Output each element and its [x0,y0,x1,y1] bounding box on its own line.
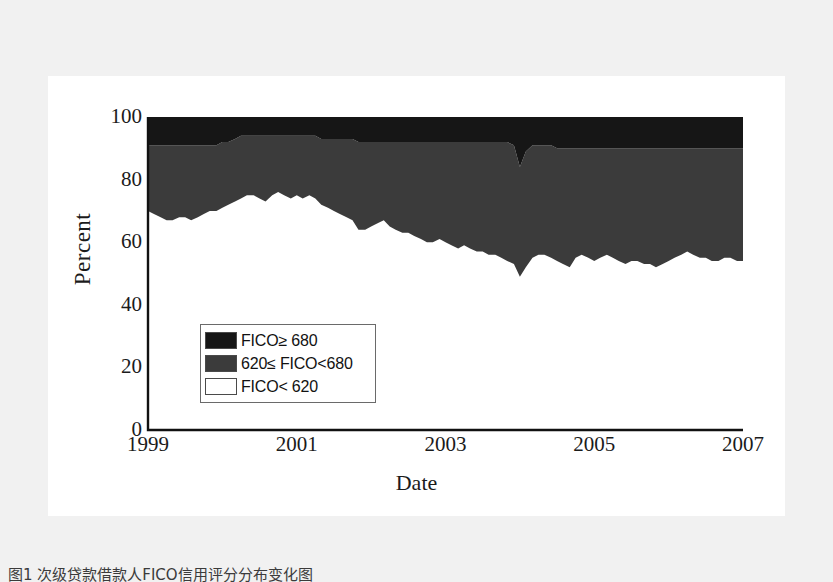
y-tick-label: 80 [96,169,142,190]
figure-caption: 图1 次级贷款借款人FICO信用评分分布变化图 [8,566,568,582]
x-tick-label: 2005 [573,434,615,455]
legend-item: FICO< 620 [205,375,369,398]
figure-panel: 020406080100 19992001200320052007 Percen… [48,76,785,516]
x-axis-ticks: 19992001200320052007 [48,434,785,464]
white-swatch [205,378,237,395]
dark-gray-swatch [205,355,237,372]
y-tick-label: 100 [96,106,142,127]
y-axis-title: Percent [70,189,96,309]
legend-item: 620≤ FICO<680 [205,352,369,375]
legend-item: FICO≥ 680 [205,329,369,352]
figure-page: 020406080100 19992001200320052007 Percen… [0,0,833,582]
chart-legend: FICO≥ 680 620≤ FICO<680 FICO< 620 [200,324,376,403]
x-tick-label: 2001 [276,434,318,455]
black-swatch [205,332,237,349]
y-tick-label: 20 [96,356,142,377]
stacked-area-chart: 020406080100 19992001200320052007 Percen… [48,76,785,516]
legend-item-label: FICO< 620 [241,378,318,396]
x-tick-label: 1999 [127,434,169,455]
x-tick-label: 2003 [425,434,467,455]
y-tick-label: 60 [96,231,142,252]
y-tick-label: 40 [96,294,142,315]
x-axis-title: Date [48,470,785,496]
x-tick-label: 2007 [722,434,764,455]
legend-item-label: 620≤ FICO<680 [241,355,353,373]
legend-item-label: FICO≥ 680 [241,332,317,350]
